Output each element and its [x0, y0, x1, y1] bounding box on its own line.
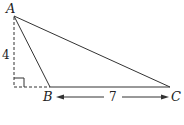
vertex-label-a: A: [5, 1, 15, 16]
arrowhead-right-icon: [161, 95, 169, 100]
arrowhead-left-icon: [56, 95, 64, 100]
right-angle-marker: [14, 78, 24, 87]
vertex-label-c: C: [171, 89, 181, 104]
base-length-label: 7: [109, 90, 117, 104]
height-label: 4: [2, 48, 10, 62]
vertex-label-b: B: [42, 89, 53, 104]
triangle-diagram: A B C 4 7: [0, 0, 184, 125]
side-ab: [14, 16, 50, 87]
side-ac: [14, 16, 170, 87]
